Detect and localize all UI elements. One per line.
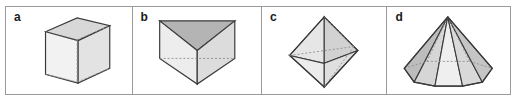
cube-figure [6, 7, 132, 94]
panel-b-triangular-prism: b [133, 7, 262, 94]
cube-svg [6, 7, 132, 94]
panel-d-hexagonal-pyramid: d [387, 7, 510, 94]
panel-a-cube: a [6, 7, 133, 94]
octahedron-svg [262, 7, 387, 94]
hexagonal-pyramid-figure [387, 7, 510, 94]
triangular-prism-svg [133, 7, 261, 94]
triangular-prism-figure [133, 7, 261, 94]
octahedron-figure [262, 7, 387, 94]
figure-root: a [0, 0, 517, 101]
panel-strip: a [5, 6, 511, 95]
hexagonal-pyramid-svg [387, 7, 510, 94]
panel-c-octahedron: c [262, 7, 388, 94]
